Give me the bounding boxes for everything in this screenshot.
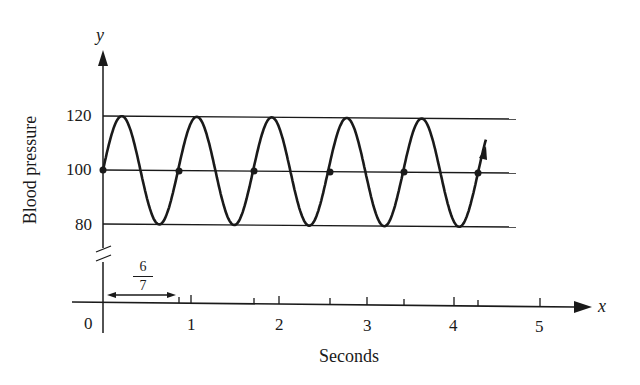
x-axis-arrow-icon (574, 301, 592, 313)
x-tick-0: 0 (84, 315, 93, 332)
x-tick-2: 2 (275, 316, 284, 333)
y-axis-arrow-icon (98, 50, 108, 66)
period-numerator: 6 (140, 259, 147, 274)
x-tick-1: 1 (187, 316, 196, 333)
x-axis-symbol: x (598, 297, 606, 315)
line-120 (103, 116, 516, 119)
period-denominator: 7 (140, 278, 147, 293)
y-tick-120: 120 (66, 107, 92, 124)
x-tick-4: 4 (449, 317, 458, 334)
x-axis (72, 302, 575, 307)
period-label: 6 7 (133, 260, 153, 293)
line-100 (103, 170, 516, 173)
y-axis-symbol: y (96, 26, 104, 44)
y-tick-100: 100 (66, 161, 92, 178)
period-arrow-right-icon (167, 292, 176, 298)
x-tick-3: 3 (363, 317, 372, 334)
y-tick-80: 80 (75, 216, 92, 233)
x-tick-5: 5 (535, 318, 544, 335)
chart-canvas (0, 0, 640, 385)
period-arrow-left-icon (107, 292, 116, 298)
y-axis-label: Blood pressure (20, 116, 41, 224)
x-axis-label: Seconds (319, 347, 379, 365)
